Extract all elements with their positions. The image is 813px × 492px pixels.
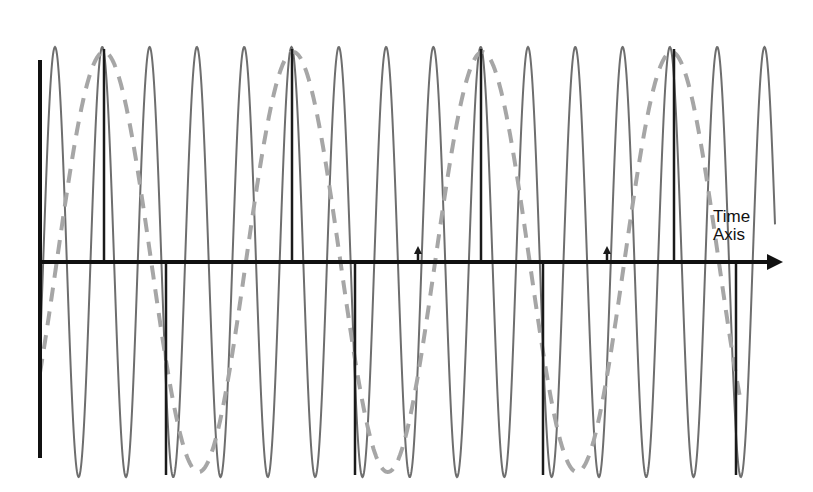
sample-arrowhead-icon (414, 246, 422, 254)
aliasing-diagram (0, 0, 813, 492)
time-axis-label: Time Axis (713, 208, 750, 244)
time-axis-label-line1: Time (713, 208, 750, 226)
axes (38, 60, 783, 458)
arrow-right-icon (767, 254, 783, 270)
sample-arrowhead-icon (603, 246, 611, 254)
time-axis-label-line2: Axis (713, 226, 750, 244)
